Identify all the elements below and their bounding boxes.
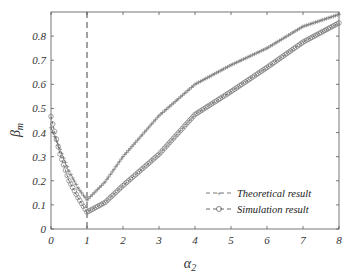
x-tick-label: 8 (336, 234, 342, 246)
legend-label: Simulation result (237, 204, 310, 215)
x-tick-label: 2 (120, 234, 126, 246)
x-tick-label: 1 (84, 234, 90, 246)
y-tick-label: 0.2 (32, 175, 46, 187)
x-tick-label: 0 (48, 234, 54, 246)
x-tick-label: 3 (155, 234, 162, 246)
legend-label: Theoretical result (237, 188, 312, 199)
y-tick-label: 0 (41, 223, 47, 235)
x-tick-label: 5 (228, 234, 234, 246)
y-axis-label: βm (8, 123, 25, 138)
y-tick-label: 0.7 (32, 54, 46, 66)
y-tick-label: 0.5 (32, 102, 46, 114)
x-tick-label: 7 (300, 234, 306, 246)
x-axis-label: α2 (184, 256, 196, 273)
plus-marker-icon: + (216, 188, 221, 198)
y-tick-label: 0.6 (32, 78, 46, 90)
y-tick-label: 0.8 (32, 30, 46, 42)
chart: 012345678 00.10.20.30.40.50.60.70.8 α2 β… (0, 0, 351, 275)
x-tick-label: 4 (192, 234, 198, 246)
y-tick-label: 0.1 (32, 199, 46, 211)
y-tick-label: 0.4 (32, 127, 46, 139)
x-tick-label: 6 (264, 234, 270, 246)
y-tick-label: 0.3 (32, 151, 46, 163)
